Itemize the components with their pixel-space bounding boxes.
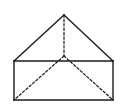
solid-edge-apex-to-rect-top-left <box>14 15 64 61</box>
dashed-edge-hidden-inner-to-rect-bottom-right <box>64 56 113 100</box>
prism-figure <box>0 0 120 107</box>
solid-edge-apex-to-rect-top-right <box>64 15 113 61</box>
hidden-dashed-edges <box>14 15 113 100</box>
dashed-edge-hidden-inner-to-rect-bottom-left <box>14 56 64 100</box>
diagram-canvas <box>0 0 120 107</box>
